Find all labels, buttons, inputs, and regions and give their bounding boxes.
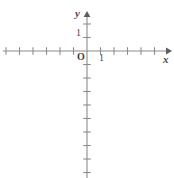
- y-axis-tick-label-1: 1: [76, 28, 81, 38]
- coordinate-plane-figure: y x O 1 1: [0, 0, 174, 178]
- y-axis-label: y: [75, 8, 80, 19]
- y-axis-arrowhead: [84, 11, 91, 17]
- x-axis-label: x: [163, 54, 169, 65]
- x-axis-tick-label-1: 1: [99, 53, 104, 63]
- origin-label: O: [77, 52, 85, 62]
- axes-drawing: [0, 0, 174, 178]
